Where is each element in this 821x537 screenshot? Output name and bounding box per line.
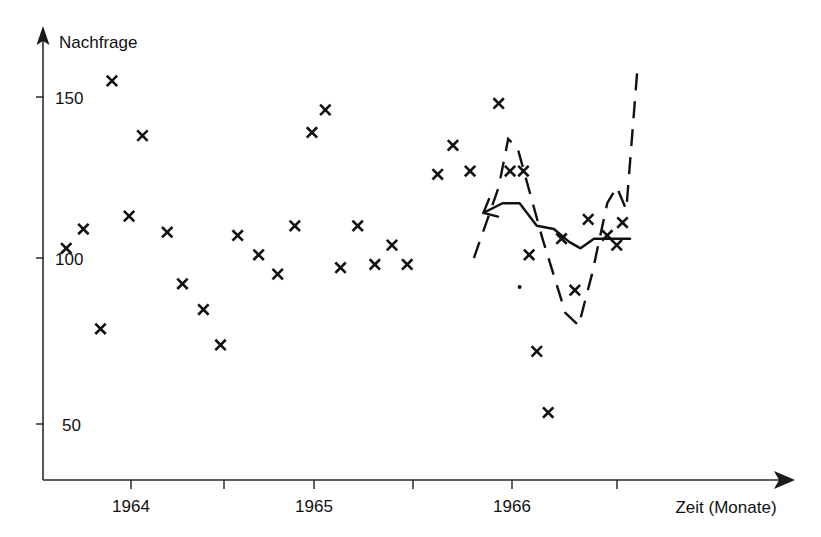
data-point-x: [402, 259, 412, 269]
data-point-dot: [518, 285, 522, 289]
series-1: [483, 199, 630, 248]
series-layer: [61, 65, 638, 418]
data-point-x: [583, 214, 593, 224]
data-point-x: [335, 262, 345, 272]
data-point-x: [524, 250, 534, 260]
data-point-x: [307, 127, 317, 137]
x-tick-label-1964: 1964: [112, 497, 150, 516]
y-axis-title: Nachfrage: [59, 33, 137, 52]
data-point-x: [272, 269, 282, 279]
data-point-x: [505, 166, 515, 176]
data-point-x: [232, 230, 242, 240]
data-point-x: [177, 279, 187, 289]
data-point-x: [352, 221, 362, 231]
data-point-x: [543, 407, 553, 417]
x-tick-label-1966: 1966: [493, 497, 531, 516]
data-point-x: [387, 240, 397, 250]
data-point-x: [617, 217, 627, 227]
data-point-x: [290, 221, 300, 231]
data-point-x: [465, 166, 475, 176]
data-point-x: [518, 166, 528, 176]
y-tick-label-50: 50: [62, 416, 81, 435]
data-point-x: [570, 285, 580, 295]
data-point-x: [612, 240, 622, 250]
data-point-x: [78, 224, 88, 234]
data-point-x: [215, 340, 225, 350]
chart-container: 150 100 50 1964 1965 1966 Nachfrage Zeit…: [0, 0, 821, 537]
data-point-x: [107, 76, 117, 86]
data-point-x: [253, 250, 263, 260]
series-3: [518, 285, 522, 289]
data-point-x: [433, 169, 443, 179]
y-tick-label-150: 150: [55, 89, 83, 108]
data-point-x: [124, 211, 134, 221]
x-axis-ticks: [131, 480, 617, 489]
series-0: [61, 76, 628, 418]
x-axis: [43, 471, 795, 489]
y-axis: [37, 26, 50, 480]
data-point-x: [162, 227, 172, 237]
data-point-x: [448, 140, 458, 150]
forecast-solid-line: [483, 203, 630, 248]
data-point-x: [198, 304, 208, 314]
data-point-x: [493, 98, 503, 108]
x-tick-label-1965: 1965: [295, 497, 333, 516]
demand-time-series-chart: 150 100 50 1964 1965 1966 Nachfrage Zeit…: [0, 0, 821, 537]
data-point-x: [370, 259, 380, 269]
data-point-x: [532, 346, 542, 356]
x-axis-title: Zeit (Monate): [675, 498, 776, 517]
data-point-x: [137, 130, 147, 140]
data-point-x: [320, 105, 330, 115]
data-point-x: [95, 324, 105, 334]
